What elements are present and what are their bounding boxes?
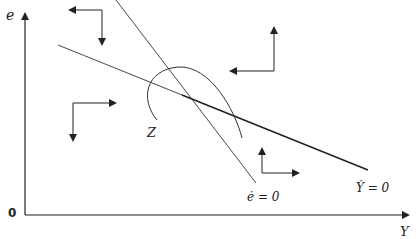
origin-label: 0 (8, 206, 16, 220)
phase-diagram: e 0 Y Z ė = 0 Ẏ = 0 (0, 0, 419, 239)
arrow-upper-left (70, 10, 102, 44)
e-dot-zero-line (116, 0, 256, 183)
trajectory-label: Z (146, 125, 157, 140)
arrow-lower-left (73, 103, 115, 140)
y-dot-zero-line-thin (58, 45, 182, 95)
y-axis-label: e (6, 7, 14, 23)
x-axis-label: Y (400, 224, 410, 239)
arrow-lower-right (262, 149, 298, 173)
y-dot-zero-line (182, 95, 368, 170)
y-dot-zero-label: Ẏ = 0 (356, 180, 390, 195)
e-dot-zero-label: ė = 0 (247, 190, 280, 204)
axes (25, 14, 408, 215)
arrow-upper-right (231, 28, 274, 71)
